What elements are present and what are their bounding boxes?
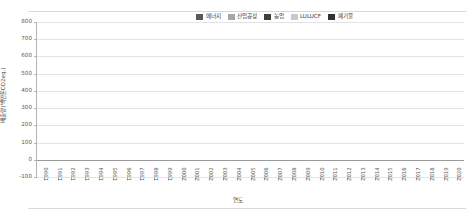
- x-tick-label: 1992: [71, 167, 76, 181]
- legend-swatch-icon: [264, 14, 271, 20]
- bar-group[interactable]: [133, 22, 147, 177]
- bar-group[interactable]: [299, 22, 313, 177]
- legend-swatch-icon: [328, 14, 335, 20]
- x-tick-label: 2016: [402, 167, 407, 181]
- legend-swatch-icon: [196, 14, 203, 20]
- bar-group[interactable]: [106, 22, 120, 177]
- bottom-divider: [28, 208, 466, 209]
- y-tick-label: 600: [21, 54, 32, 60]
- bar-group[interactable]: [395, 22, 409, 177]
- bar-group[interactable]: [161, 22, 175, 177]
- legend-label: 산업공정: [237, 14, 257, 20]
- legend-label: LULUCF: [300, 14, 321, 20]
- x-tick-label: 1997: [140, 167, 145, 181]
- x-tick-label: 1999: [168, 167, 173, 181]
- legend-item[interactable]: LULUCF: [291, 14, 322, 20]
- bar-group[interactable]: [368, 22, 382, 177]
- x-tick-label: 1993: [85, 167, 90, 181]
- bar-series-group: [37, 22, 464, 177]
- bar-group[interactable]: [423, 22, 437, 177]
- bar-group[interactable]: [147, 22, 161, 177]
- x-tick-label: 1995: [113, 167, 118, 181]
- bar-group[interactable]: [175, 22, 189, 177]
- bar-group[interactable]: [285, 22, 299, 177]
- legend-label: 폐기물: [338, 14, 353, 20]
- x-tick-label: 2006: [264, 167, 269, 181]
- bar-group[interactable]: [271, 22, 285, 177]
- x-tick-label: 1991: [58, 167, 63, 181]
- bar-group[interactable]: [326, 22, 340, 177]
- x-tick-label: 1996: [127, 167, 132, 181]
- bar-group[interactable]: [230, 22, 244, 177]
- x-tick-label: 1990: [44, 167, 49, 181]
- y-tick-label: 400: [21, 88, 32, 94]
- bar-group[interactable]: [340, 22, 354, 177]
- top-divider: [28, 11, 466, 12]
- bar-group[interactable]: [120, 22, 134, 177]
- bar-group[interactable]: [258, 22, 272, 177]
- bar-group[interactable]: [78, 22, 92, 177]
- legend-swatch-icon: [228, 14, 235, 20]
- x-tick-label: 2012: [347, 167, 352, 181]
- bar-group[interactable]: [51, 22, 65, 177]
- y-tick-label: 500: [21, 71, 32, 77]
- y-axis-title: 배출량(백만톤CO2eq.): [1, 52, 7, 138]
- x-tick-label: 2014: [375, 167, 380, 181]
- bar-group[interactable]: [354, 22, 368, 177]
- x-tick-label: 2011: [333, 167, 338, 181]
- chart-figure: 배출량(백만톤CO2eq.) 8007006005004003002001000…: [0, 0, 476, 221]
- x-tick-label: 2020: [457, 167, 462, 181]
- y-tick-label: 700: [21, 36, 32, 42]
- x-tick-label: 2001: [195, 167, 200, 181]
- legend-label: 농업: [274, 14, 284, 20]
- bar-group[interactable]: [189, 22, 203, 177]
- y-tick-label: 0: [28, 157, 32, 163]
- bar-group[interactable]: [65, 22, 79, 177]
- bar-group[interactable]: [437, 22, 451, 177]
- y-tick-label: 100: [21, 140, 32, 146]
- x-tick-label: 1994: [99, 167, 104, 181]
- x-axis-title: 연도: [0, 198, 476, 204]
- x-tick-label: 2007: [278, 167, 283, 181]
- y-tick-label: 200: [21, 123, 32, 129]
- bar-group[interactable]: [216, 22, 230, 177]
- bar-group[interactable]: [450, 22, 464, 177]
- plot-area: 8007006005004003002001000-100: [36, 22, 464, 177]
- bar-group[interactable]: [313, 22, 327, 177]
- x-tick-label: 2005: [251, 167, 256, 181]
- legend-item[interactable]: 농업: [264, 14, 284, 20]
- x-tick-label: 2018: [430, 167, 435, 181]
- x-tick-label: 2008: [292, 167, 297, 181]
- x-tick-label: 2013: [361, 167, 366, 181]
- legend-item[interactable]: 폐기물: [328, 14, 353, 20]
- legend-item[interactable]: 에너지: [196, 14, 221, 20]
- bar-group[interactable]: [92, 22, 106, 177]
- bar-group[interactable]: [37, 22, 51, 177]
- x-tick-label: 2015: [388, 167, 393, 181]
- bar-group[interactable]: [202, 22, 216, 177]
- x-tick-label: 2002: [209, 167, 214, 181]
- bar-group[interactable]: [409, 22, 423, 177]
- chart-legend: 에너지산업공정농업LULUCF폐기물: [196, 14, 353, 20]
- y-tick-label: 800: [21, 19, 32, 25]
- x-tick-label: 2017: [416, 167, 421, 181]
- x-tick-label: 2019: [444, 167, 449, 181]
- x-tick-label: 2004: [237, 167, 242, 181]
- y-tick-label: 300: [21, 105, 32, 111]
- x-tick-label: 2000: [182, 167, 187, 181]
- x-tick-label: 2010: [320, 167, 325, 181]
- legend-item[interactable]: 산업공정: [228, 14, 258, 20]
- x-tick-label: 2009: [306, 167, 311, 181]
- x-tick-label: 2003: [223, 167, 228, 181]
- legend-label: 에너지: [206, 14, 221, 20]
- legend-swatch-icon: [291, 14, 298, 20]
- y-tick-label: -100: [19, 174, 32, 180]
- bar-group[interactable]: [382, 22, 396, 177]
- x-tick-label: 1998: [154, 167, 159, 181]
- bar-group[interactable]: [244, 22, 258, 177]
